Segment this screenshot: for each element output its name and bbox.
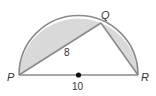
semicircle-diagram: P Q R 8 10 bbox=[0, 0, 156, 96]
center-dot bbox=[76, 72, 81, 77]
label-pq-length: 8 bbox=[64, 47, 70, 58]
label-q: Q bbox=[101, 9, 110, 21]
label-pr-length: 10 bbox=[72, 81, 84, 92]
label-r: R bbox=[141, 71, 149, 83]
label-p: P bbox=[7, 71, 15, 83]
